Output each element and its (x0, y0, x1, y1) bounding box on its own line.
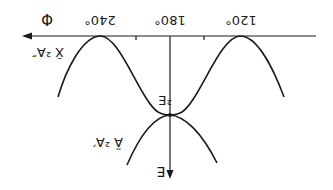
tick-label-180: 180° (154, 13, 185, 28)
crossing-label: ²E (158, 93, 171, 108)
upper-state-label: X̃ ²A″ (32, 45, 64, 60)
lower-state-label: Ã ²A′ (93, 135, 123, 150)
tick-label-240: 240° (84, 13, 115, 28)
phi-axis-label: Φ (41, 10, 53, 28)
crossing-point (168, 113, 172, 117)
phi-axis-arrow-icon (22, 33, 32, 40)
tick-label-120: 120° (225, 13, 256, 28)
energy-axis-label: E (157, 164, 166, 180)
energy-axis-arrow-icon (167, 170, 174, 179)
potential-energy-diagram: Φ 240° 180° 120° ²E X̃ ²A″ Ã ²A′ E (0, 0, 333, 190)
lower-state-curve (127, 115, 217, 165)
phi-axis (22, 33, 316, 41)
